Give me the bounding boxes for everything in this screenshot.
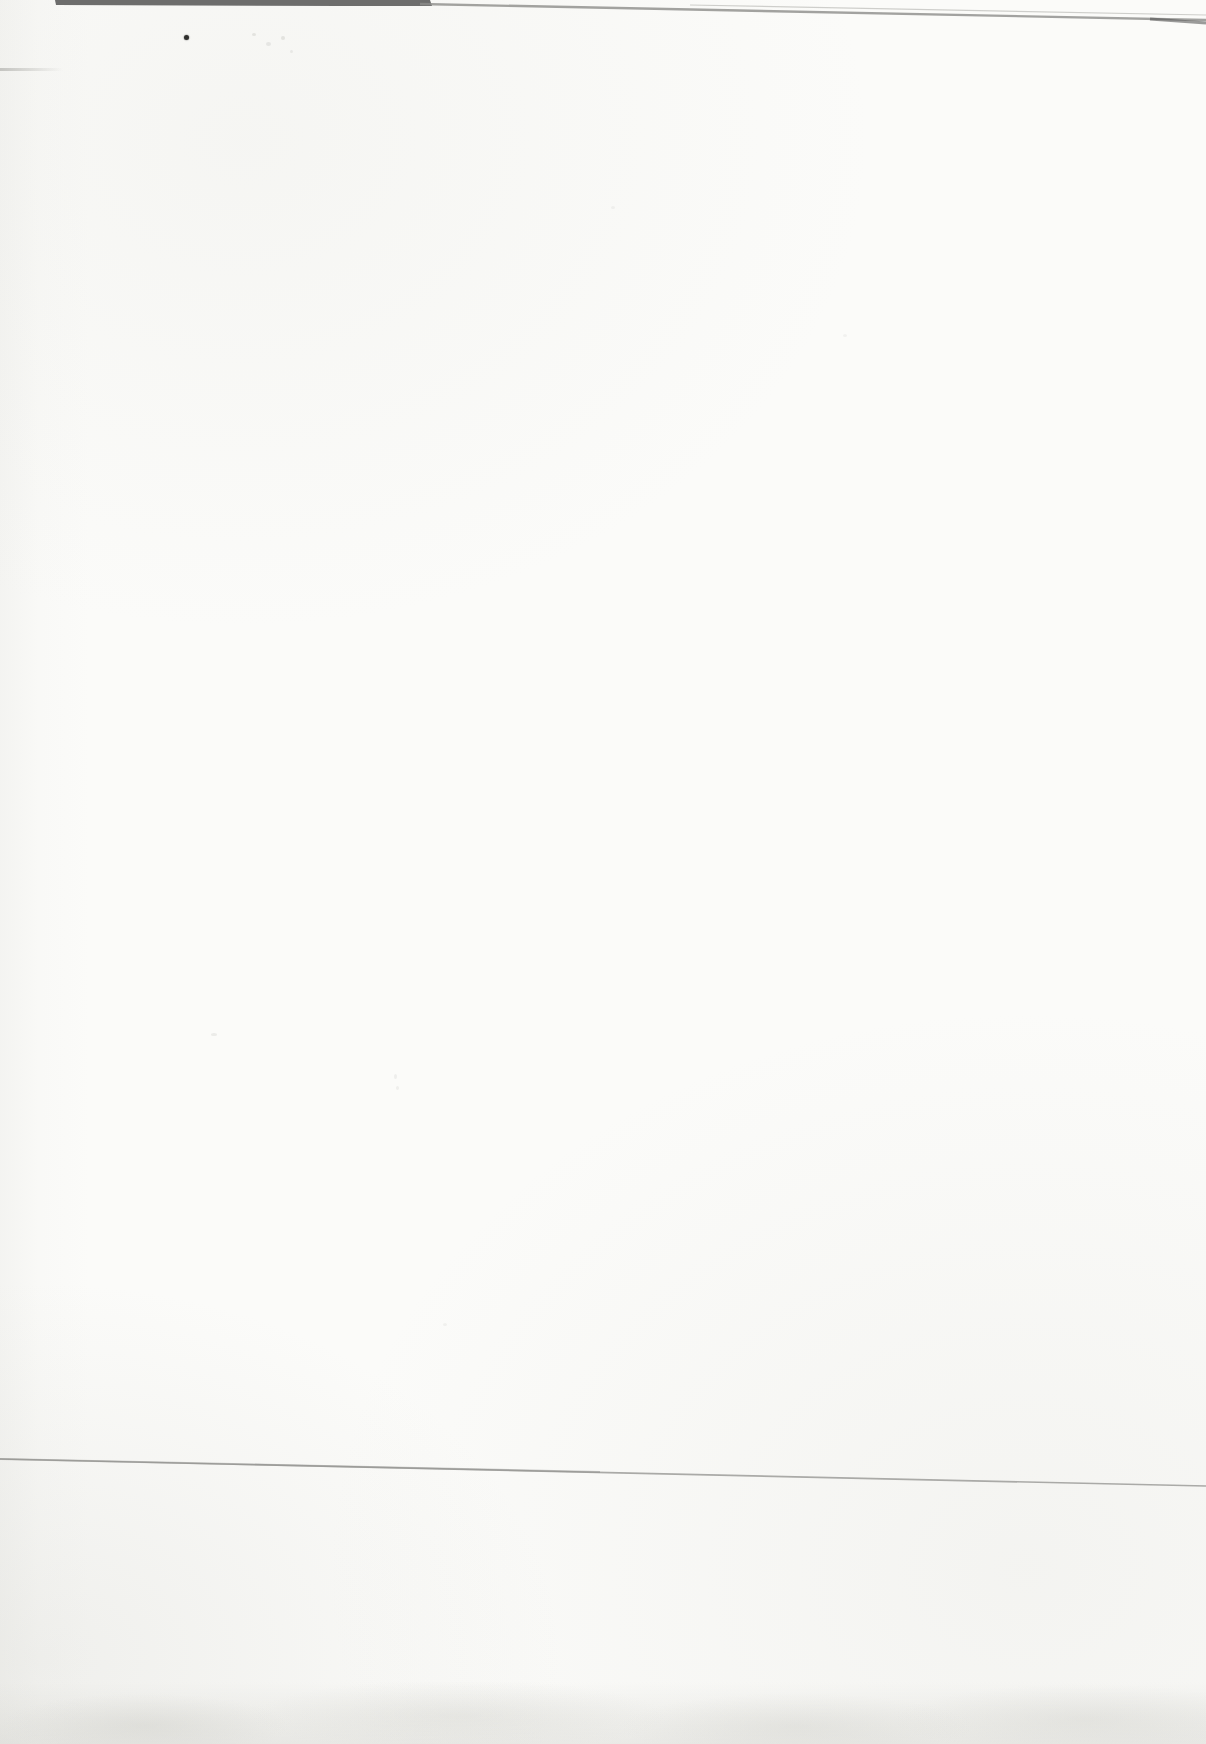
- page-crease-line: [0, 1450, 1206, 1495]
- paper-speckle: [290, 50, 293, 53]
- crease-hairline-left-dark: [0, 1459, 600, 1472]
- paper-speckle: [266, 42, 271, 46]
- top-edge-diagonal-line: [420, 4, 1206, 20]
- bottom-edge-texture: [0, 1682, 1206, 1744]
- left-edge-smudge-line: [0, 68, 63, 71]
- top-edge-dark-band: [55, 0, 432, 6]
- paper-speckle: [611, 206, 615, 209]
- paper-speckle: [443, 1323, 447, 1326]
- ink-dot: [184, 35, 189, 40]
- scanned-page: [0, 0, 1206, 1744]
- paper-speckle: [252, 33, 256, 36]
- paper-speckle: [396, 1086, 399, 1090]
- paper-speckle: [211, 1033, 217, 1036]
- paper-speckle: [843, 334, 847, 337]
- paper-speckle: [394, 1074, 397, 1079]
- paper-speckle: [281, 36, 285, 40]
- top-scan-edge-artifact: [0, 0, 1206, 42]
